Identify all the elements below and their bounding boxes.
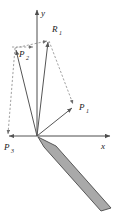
vector-r1-line [37, 42, 48, 136]
dashed-edge-p2-to-r1 [15, 41, 47, 48]
vector-p2-line [16, 50, 37, 136]
vector-label-p1-base: P [78, 102, 85, 112]
vector-label-p2-base: P [18, 49, 25, 59]
vector-diagram-figure: x y R 1 P 2 P 1 P 3 [0, 0, 118, 216]
vector-label-p3-base: P [3, 142, 10, 152]
dashed-edge-p2-to-p3 [8, 48, 15, 134]
y-axis-label: y [40, 8, 45, 18]
vector-label-p2: P 2 [18, 49, 29, 61]
vector-label-p1-subscript: 1 [86, 108, 89, 114]
vector-p1-line [37, 108, 72, 136]
vector-label-p3-subscript: 3 [10, 148, 14, 154]
vector-label-p3: P 3 [3, 142, 14, 154]
vector-label-r1: R 1 [51, 24, 62, 36]
vector-label-r1-base: R [51, 24, 58, 34]
vector-label-p1: P 1 [78, 102, 89, 114]
vector-label-r1-subscript: 1 [59, 30, 62, 36]
dashed-edge-r1-to-p1 [49, 41, 73, 104]
diagram-canvas: x y R 1 P 2 P 1 P 3 [0, 0, 118, 216]
x-axis-label: x [100, 141, 105, 151]
vector-label-p2-subscript: 2 [26, 55, 29, 61]
